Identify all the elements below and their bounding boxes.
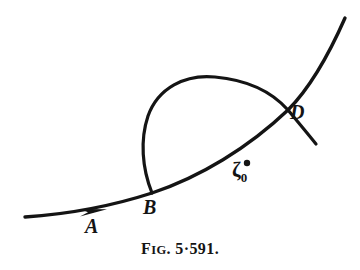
loop-curve-path [143, 77, 316, 193]
figure-caption: FIG. 5·591. [0, 240, 360, 258]
point-label-b: B [143, 197, 156, 217]
point-label-d: D [290, 102, 304, 122]
zeta-glyph: ζ [232, 158, 241, 182]
point-label-a: A [85, 216, 98, 236]
caption-number: . 5·591. [167, 240, 220, 257]
caption-prefix: F [141, 240, 151, 257]
curve-diagram [0, 0, 360, 270]
point-label-zeta-zero: ζ0 [232, 160, 247, 184]
figure-container: A B D ζ0 FIG. 5·591. [0, 0, 360, 270]
zeta-subscript: 0 [241, 170, 248, 185]
caption-smallcaps: IG [151, 243, 166, 257]
